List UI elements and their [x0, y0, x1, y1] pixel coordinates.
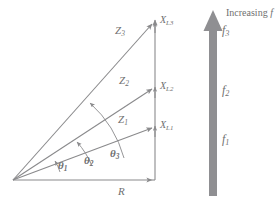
label-increasing-frequency: Increasing f [226, 8, 273, 18]
frequency-arrow-shaft [209, 28, 217, 196]
label-frequency-f2: f2 [222, 84, 229, 96]
label-reactance-xl1: XL1 [160, 120, 173, 130]
label-frequency-f1: f1 [222, 133, 229, 145]
frequency-arrow-head [204, 10, 223, 31]
label-frequency-f3: f3 [222, 24, 229, 36]
vector-z1 [13, 128, 152, 180]
label-reactance-xl3: XL3 [160, 15, 173, 25]
label-vector-z3: Z3 [115, 25, 125, 36]
diagram-canvas [0, 0, 276, 208]
label-resistance-r: R [118, 186, 125, 197]
impedance-vectors [13, 24, 152, 180]
label-angle-theta3: θ3 [110, 148, 119, 159]
label-angle-theta1: θ1 [58, 160, 67, 171]
label-angle-theta2: θ2 [84, 155, 93, 166]
frequency-arrow-shape [204, 10, 223, 196]
label-reactance-xl2: XL2 [160, 81, 173, 91]
label-vector-z1: Z1 [118, 114, 128, 125]
label-vector-z2: Z2 [119, 75, 129, 86]
impedance-phasor-figure: Z3 Z2 Z1 XL3 XL2 XL1 θ1 θ2 θ3 R Increasi… [0, 0, 276, 208]
